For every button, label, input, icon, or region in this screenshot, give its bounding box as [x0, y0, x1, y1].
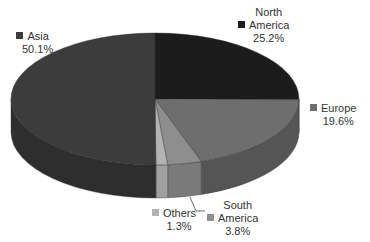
label-sa-line2: America — [218, 212, 258, 224]
label-na-line2: America — [249, 19, 289, 31]
label-europe-value: 19.6% — [310, 115, 356, 128]
label-north-america: North America 25.2% — [238, 6, 289, 45]
label-sa-line1: South — [207, 199, 258, 212]
pie-top-faces — [11, 33, 299, 165]
label-others: Others 1.3% — [152, 207, 196, 233]
asia-swatch — [16, 32, 23, 39]
label-asia-value: 50.1% — [12, 43, 53, 56]
south-america-swatch — [207, 214, 214, 221]
label-asia: Asia 50.1% — [12, 30, 53, 56]
label-south-america: South America 3.8% — [207, 199, 258, 238]
north-america-swatch — [238, 21, 245, 28]
label-others-name: Others — [163, 207, 196, 219]
label-europe-name: Europe — [321, 102, 356, 114]
label-asia-name: Asia — [27, 30, 48, 42]
label-sa-value: 3.8% — [207, 225, 258, 238]
label-others-value: 1.3% — [152, 220, 196, 233]
label-europe: Europe 19.6% — [310, 102, 356, 128]
europe-swatch — [310, 104, 317, 111]
pie-side-south-america — [168, 162, 202, 198]
others-swatch — [152, 209, 159, 216]
label-na-value: 25.2% — [238, 32, 289, 45]
pie-side-others — [156, 165, 168, 198]
label-na-line1: North — [238, 6, 289, 19]
